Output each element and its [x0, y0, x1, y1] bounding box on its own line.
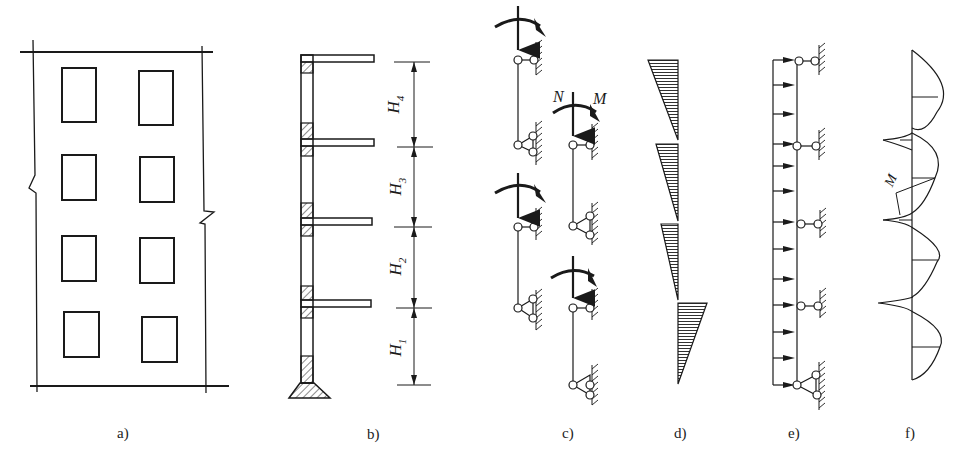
window [62, 68, 177, 362]
panel-b-section [289, 55, 433, 398]
panel-c-members [495, 6, 600, 405]
label-base: H [384, 101, 403, 113]
caption-a: a) [117, 425, 129, 442]
caption-f: f) [905, 425, 915, 442]
dimension-label-h2: H2 [386, 258, 407, 276]
panel-d-moment-diagram [648, 60, 707, 384]
label-sub: 1 [396, 339, 408, 345]
axial-force-label: N [552, 88, 565, 105]
dimension-label-h4: H4 [384, 96, 405, 114]
label-sub: 3 [396, 178, 408, 184]
moment-label: M [592, 90, 608, 107]
label-base: H [386, 263, 405, 275]
caption-b: b) [367, 426, 380, 443]
panel-a-elevation [20, 40, 229, 393]
caption-e: e) [788, 425, 800, 442]
dimension-label-h3: H3 [386, 178, 407, 196]
label-base: H [386, 183, 405, 195]
panel-f-moment-diagram [878, 50, 944, 380]
panel-f-moment-label: M [881, 171, 901, 190]
caption-c: c) [562, 425, 574, 442]
label-sub: 4 [394, 96, 406, 102]
label-base: H [386, 344, 405, 356]
structural-diagram: N M [0, 0, 962, 462]
panel-e-continuous-member [773, 43, 826, 410]
caption-d: d) [674, 425, 687, 442]
dimension-label-h1: H1 [386, 339, 407, 357]
label-sub: 2 [396, 258, 408, 264]
